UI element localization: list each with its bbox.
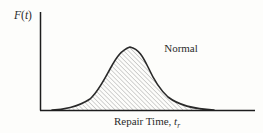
normal-distribution-figure: F(t) Normal Repair Time, tr [0,0,263,133]
x-axis-label-subscript: r [177,121,180,130]
curve-annotation-label: Normal [164,42,198,54]
y-axis-label-paren-close: ) [28,9,32,22]
x-axis-label-text: Repair Time, [114,115,174,127]
y-axis-label: F(t) [13,9,32,22]
figure-canvas: F(t) Normal Repair Time, tr [0,0,263,133]
x-axis-label: Repair Time, tr [114,115,180,130]
